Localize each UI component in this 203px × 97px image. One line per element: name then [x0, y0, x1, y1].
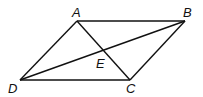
label-e: E [96, 56, 105, 71]
label-c: C [126, 81, 136, 96]
label-d: D [8, 81, 17, 96]
side-da [20, 21, 77, 80]
diagram-svg: A B C D E [0, 0, 203, 97]
diagonal-bd [20, 21, 185, 80]
label-a: A [71, 5, 81, 20]
side-bc [130, 21, 185, 80]
label-b: B [183, 5, 192, 20]
parallelogram-diagram: A B C D E [0, 0, 203, 97]
